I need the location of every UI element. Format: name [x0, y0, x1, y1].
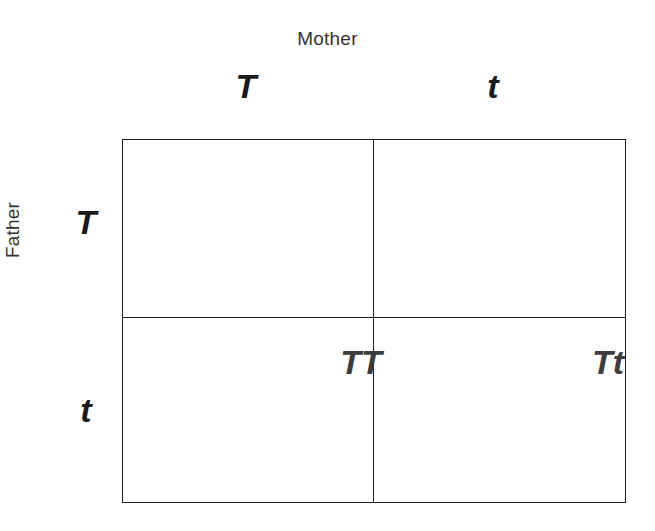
genotype-cell-0-0: TT	[340, 345, 382, 379]
grid-vertical-divider	[373, 140, 374, 502]
row-allele-header-1: t	[80, 393, 91, 427]
row-allele-header-0: T	[76, 205, 97, 239]
father-axis-label: Father	[2, 202, 24, 258]
punnett-square-diagram: Mother Father T t T t TT Tt tT tt	[0, 0, 655, 531]
genotype-cell-0-1: Tt	[592, 345, 624, 379]
punnett-grid: TT Tt tT tt	[122, 139, 626, 503]
grid-horizontal-divider	[123, 317, 625, 318]
column-allele-header-0: T	[236, 69, 257, 103]
column-allele-header-1: t	[487, 69, 498, 103]
mother-axis-label: Mother	[0, 28, 655, 50]
